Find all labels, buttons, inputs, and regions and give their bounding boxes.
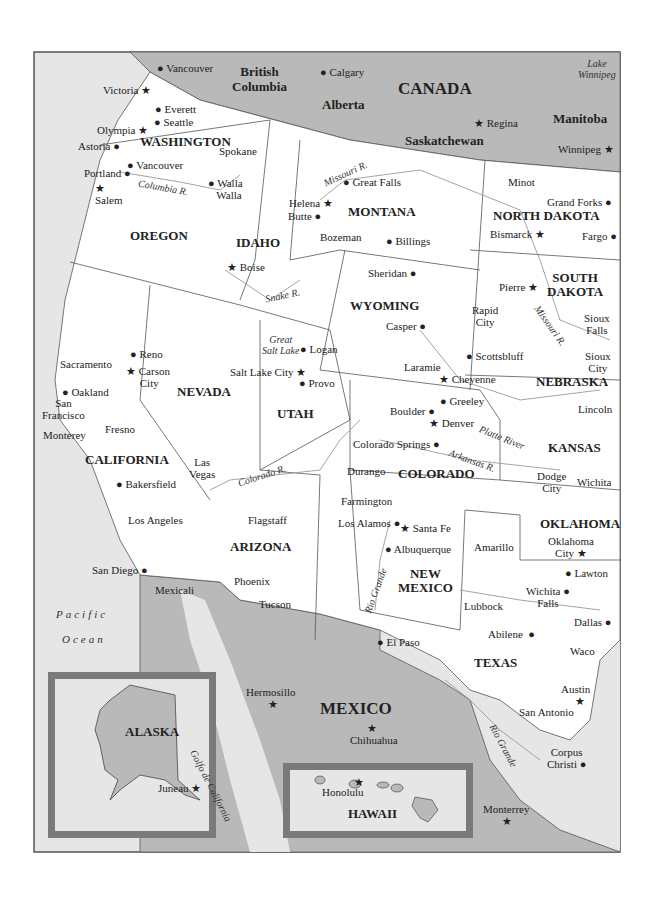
city-boise: ★ Boise bbox=[227, 261, 265, 273]
state-arizona: ARIZONA bbox=[230, 540, 291, 554]
city-las-vegas: LasVegas bbox=[189, 456, 215, 480]
city-casper: Casper ● bbox=[386, 320, 426, 332]
country-mexico: MEXICO bbox=[320, 700, 392, 718]
city-calgary: ● Calgary bbox=[320, 66, 364, 78]
state-north-dakota: NORTH DAKOTA bbox=[493, 209, 600, 223]
label-pacific: Pacific bbox=[56, 608, 108, 620]
city-monterrey: Monterrey ★ bbox=[483, 803, 529, 827]
city-sioux-city: SiouxCity bbox=[585, 350, 611, 374]
city-san-antonio: San Antonio bbox=[519, 706, 574, 718]
city-vancouver-bc: ● Vancouver bbox=[157, 62, 213, 74]
city-dodge-city: DodgeCity bbox=[537, 470, 566, 494]
city-winnipeg: Winnipeg ★ bbox=[558, 143, 614, 155]
city-amarillo: Amarillo bbox=[474, 541, 514, 553]
city-flagstaff: Flagstaff bbox=[248, 514, 287, 526]
city-denver: ★ Denver bbox=[429, 417, 474, 429]
city-los-alamos: Los Alamos ● bbox=[338, 517, 400, 529]
city-monterey: Monterey bbox=[43, 429, 86, 441]
city-los-angeles: Los Angeles bbox=[128, 514, 183, 526]
city-mexicali: Mexicali bbox=[155, 584, 194, 596]
city-fargo: Fargo ● bbox=[582, 230, 617, 242]
city-dallas: Dallas ● bbox=[574, 616, 612, 628]
state-nevada: NEVADA bbox=[177, 385, 231, 399]
label-lake-winnipeg: LakeWinnipeg bbox=[578, 58, 616, 80]
city-cheyenne: ★ Cheyenne bbox=[439, 373, 496, 385]
city-san-diego: San Diego ● bbox=[92, 564, 148, 576]
city-provo: ● Provo bbox=[299, 377, 335, 389]
city-austin: Austin ★ bbox=[561, 683, 590, 707]
city-oklahoma-city: OklahomaCity ★ bbox=[548, 535, 594, 559]
city-sheridan: Sheridan ● bbox=[368, 267, 417, 279]
state-montana: MONTANA bbox=[348, 205, 416, 219]
city-spokane: Spokane bbox=[219, 145, 257, 157]
city-salt-lake-city: Salt Lake City ★ bbox=[230, 366, 306, 378]
inset-title-hawaii: HAWAII bbox=[348, 806, 397, 822]
city-logan: ● Logan bbox=[300, 343, 338, 355]
city-laramie: Laramie bbox=[404, 361, 441, 373]
city-bismarck: Bismarck ★ bbox=[490, 228, 545, 240]
city-walla-walla: ● Walla Walla bbox=[208, 177, 243, 201]
city-billings: ● Billings bbox=[386, 235, 430, 247]
city-santa-fe: ★ Santa Fe bbox=[400, 522, 451, 534]
state-oklahoma: OKLAHOMA bbox=[540, 517, 620, 531]
city-grand-forks: Grand Forks ● bbox=[547, 196, 612, 208]
city-everett: ● Everett bbox=[155, 103, 196, 115]
state-idaho: IDAHO bbox=[236, 236, 280, 250]
city-sacramento: Sacramento bbox=[60, 358, 112, 370]
city-reno: ● Reno bbox=[130, 348, 163, 360]
province-alberta: Alberta bbox=[322, 97, 365, 112]
state-wyoming: WYOMING bbox=[350, 299, 419, 313]
city-salem: ★Salem bbox=[95, 182, 123, 206]
city-el-paso: ● El Paso bbox=[377, 636, 420, 648]
label-great-salt-lake: GreatSalt Lake bbox=[262, 334, 300, 356]
city-abilene: Abilene ● bbox=[488, 628, 535, 640]
city-san-francisco: SanFrancisco bbox=[42, 397, 85, 421]
city-regina: ★ Regina bbox=[474, 117, 518, 129]
state-washington: WASHINGTON bbox=[140, 135, 231, 149]
state-utah: UTAH bbox=[277, 407, 314, 421]
city-lincoln: Lincoln bbox=[578, 403, 612, 415]
city-great-falls: ● Great Falls bbox=[343, 176, 401, 188]
state-south-dakota: SOUTHDAKOTA bbox=[547, 271, 603, 299]
city-waco: Waco bbox=[570, 645, 595, 657]
city-chihuahua: ★Chihuahua bbox=[350, 722, 398, 746]
state-california: CALIFORNIA bbox=[85, 453, 169, 467]
country-canada: CANADA bbox=[398, 80, 472, 98]
city-vancouver-wa: ● Vancouver bbox=[127, 159, 183, 171]
city-bakersfield: ● Bakersfield bbox=[116, 478, 176, 490]
inset-title-alaska: ALASKA bbox=[125, 724, 179, 740]
state-colorado: COLORADO bbox=[398, 467, 475, 481]
province-saskatchewan: Saskatchewan bbox=[405, 133, 484, 148]
honolulu-star: ★ bbox=[354, 776, 364, 788]
city-butte: Butte ● bbox=[288, 210, 321, 222]
city-boulder: Boulder ● bbox=[390, 405, 435, 417]
city-helena: Helena ★ bbox=[289, 197, 333, 209]
city-greeley: ● Greeley bbox=[440, 395, 484, 407]
city-sioux-falls: SiouxFalls bbox=[584, 312, 610, 336]
state-kansas: KANSAS bbox=[548, 441, 601, 455]
city-colorado-springs: Colorado Springs ● bbox=[353, 438, 440, 450]
city-wichita-falls: Wichita ●Falls bbox=[526, 585, 570, 609]
state-nebraska: NEBRASKA bbox=[536, 375, 608, 389]
city-lubbock: Lubbock bbox=[464, 600, 503, 612]
province-manitoba: Manitoba bbox=[553, 111, 607, 126]
city-fresno: Fresno bbox=[105, 423, 135, 435]
state-new-mexico: NEWMEXICO bbox=[398, 567, 453, 595]
city-wichita: Wichita bbox=[577, 476, 611, 488]
city-victoria: Victoria ★ bbox=[103, 84, 151, 96]
city-olympia: Olympia ★ bbox=[97, 124, 148, 136]
province-british-columbia: British Columbia bbox=[222, 64, 297, 94]
city-rapid-city: RapidCity bbox=[472, 304, 498, 328]
city-scottsbluff: ● Scottsbluff bbox=[466, 350, 523, 362]
city-albuquerque: ● Albuquerque bbox=[385, 543, 451, 555]
city-seattle: ● Seattle bbox=[154, 116, 193, 128]
city-pierre: Pierre ★ bbox=[499, 281, 538, 293]
city-farmington: Farmington bbox=[341, 495, 392, 507]
western-us-map: CANADA MEXICO British Columbia Alberta S… bbox=[0, 0, 656, 900]
city-tucson: Tucson bbox=[259, 598, 291, 610]
city-carson-city: ★ Carson City bbox=[126, 365, 170, 389]
city-durango: Durango bbox=[347, 465, 386, 477]
city-astoria: Astoria ● bbox=[78, 140, 120, 152]
state-texas: TEXAS bbox=[474, 656, 517, 670]
label-ocean: Ocean bbox=[62, 633, 106, 645]
